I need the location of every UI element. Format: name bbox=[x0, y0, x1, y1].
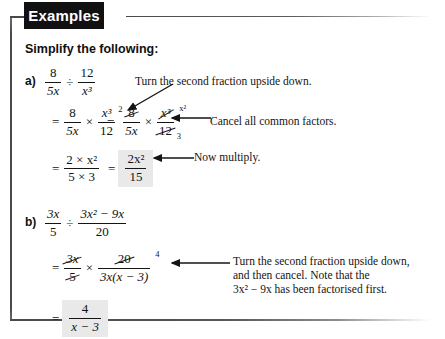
equals-sign: = bbox=[107, 114, 114, 130]
step1-first-denominator: 5x bbox=[64, 124, 80, 139]
equals-sign: = bbox=[52, 260, 59, 276]
arrow-to-multiply-note bbox=[150, 152, 196, 164]
step2-denominator: 5 × 3 bbox=[66, 170, 97, 185]
part-a-fraction-right: 12 x³ bbox=[78, 66, 95, 98]
part-b-answer-denominator: x − 3 bbox=[69, 320, 101, 335]
part-b-step-1: = 3x 5 × 20 3x(x − 3) 4 bbox=[52, 252, 152, 284]
cancelled-5: 5 bbox=[67, 270, 78, 285]
step2-fraction: 2 × x² 5 × 3 bbox=[64, 153, 99, 185]
arrow-to-step1 bbox=[120, 82, 180, 116]
part-a-left-numerator: 8 bbox=[48, 66, 59, 81]
part-a-answer-highlight: 2x² 15 bbox=[118, 150, 153, 187]
part-a-problem: 8 5x ÷ 12 x³ bbox=[43, 66, 97, 98]
times-operator: × bbox=[86, 260, 93, 276]
arrow-to-cancel-note bbox=[168, 112, 213, 124]
cancelled-20: 20 bbox=[116, 252, 133, 267]
times-operator: × bbox=[145, 114, 152, 130]
part-b-right-denominator: 20 bbox=[94, 225, 111, 240]
frame-left-rule bbox=[10, 16, 12, 321]
cancelled-12: 12 bbox=[157, 124, 174, 139]
frame-top-right-rule bbox=[126, 16, 432, 17]
part-b-fraction-left: 3x 5 bbox=[45, 207, 61, 239]
equals-sign: = bbox=[108, 161, 115, 177]
part-a-left-denominator: 5x bbox=[45, 84, 61, 99]
part-b-left-denominator: 5 bbox=[48, 225, 59, 240]
equals-sign: = bbox=[52, 114, 59, 130]
step1-first-numerator: 8 bbox=[67, 106, 78, 121]
times-operator: × bbox=[86, 114, 93, 130]
part-b-step1-first-fraction: 3x 5 bbox=[64, 252, 80, 284]
examples-header-label: Examples bbox=[28, 7, 100, 24]
part-b-step-2: = 4 x − 3 bbox=[52, 300, 108, 337]
part-b-answer-highlight: 4 x − 3 bbox=[62, 300, 108, 337]
divide-operator: ÷ bbox=[66, 215, 73, 231]
part-b-label: b) bbox=[25, 215, 36, 229]
factorised-denominator: 3x(x − 3) bbox=[98, 270, 150, 285]
note-cancel-common-factors: Cancel all common factors. bbox=[210, 114, 336, 130]
step2-numerator: 2 × x² bbox=[64, 153, 99, 168]
part-a-answer-denominator: 15 bbox=[127, 170, 144, 185]
note-now-multiply: Now multiply. bbox=[194, 150, 260, 166]
part-a-fraction-left: 8 5x bbox=[45, 66, 61, 98]
equals-sign: = bbox=[52, 161, 59, 177]
examples-header-tab: Examples bbox=[24, 2, 104, 29]
part-a-answer-fraction: 2x² 15 bbox=[125, 152, 146, 184]
instruction-text: Simplify the following: bbox=[25, 42, 158, 56]
cancelled-first-denominator: 5x bbox=[123, 124, 139, 139]
arrow-to-part-b-note bbox=[168, 257, 232, 269]
part-b-fraction-right: 3x² − 9x 20 bbox=[78, 207, 126, 239]
part-b-answer-fraction: 4 x − 3 bbox=[69, 302, 101, 334]
cancel-subscript-3: 3 bbox=[177, 131, 181, 141]
cancelled-3x: 3x bbox=[64, 252, 80, 267]
divide-operator: ÷ bbox=[66, 74, 73, 90]
cancel-result-4: 4 bbox=[155, 249, 159, 259]
part-a-right-numerator: 12 bbox=[78, 66, 95, 81]
part-b-right-numerator: 3x² − 9x bbox=[78, 207, 126, 222]
part-a-answer-numerator: 2x² bbox=[125, 152, 146, 167]
part-b-step1-second-fraction: 20 3x(x − 3) 4 bbox=[98, 252, 150, 284]
part-a-label: a) bbox=[25, 74, 36, 88]
part-a-step-2: = 2 × x² 5 × 3 = 2x² 15 bbox=[52, 150, 153, 187]
part-b-left-numerator: 3x bbox=[45, 207, 61, 222]
part-b-problem: 3x 5 ÷ 3x² − 9x 20 bbox=[43, 207, 128, 239]
part-a-right-denominator: x³ bbox=[80, 84, 94, 99]
step1-first-fraction: 8 5x bbox=[64, 106, 80, 138]
note-part-b-line-3: 3x² − 9x has been factorised first. bbox=[233, 282, 387, 298]
part-b-answer-numerator: 4 bbox=[80, 302, 91, 317]
equals-sign: = bbox=[52, 311, 59, 327]
frame-top-left-rule bbox=[10, 16, 24, 18]
